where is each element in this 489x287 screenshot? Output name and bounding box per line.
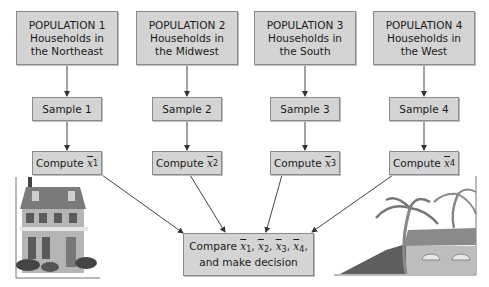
compute-2-box: Compute x2	[152, 151, 222, 175]
population-1-box: POPULATION 1 Households in the Northeast	[16, 11, 118, 65]
compare-box: Compare x1, x2, x3, x4, and make decisio…	[183, 233, 314, 276]
subscript: 2	[213, 157, 218, 170]
population-desc: the South	[279, 45, 330, 58]
population-desc: Households in	[387, 32, 461, 45]
compare-line-2: and make decision	[199, 256, 298, 269]
house-illustration	[14, 175, 102, 281]
subscript: 3	[331, 157, 336, 170]
compute-label: Compute	[393, 157, 441, 170]
population-3-box: POPULATION 3 Households in the South	[254, 11, 356, 65]
population-desc: the West	[401, 45, 447, 58]
sample-3-box: Sample 3	[270, 97, 340, 121]
compare-label: Compare	[189, 240, 237, 252]
population-desc: Households in	[150, 32, 224, 45]
sample-2-box: Sample 2	[152, 97, 222, 121]
subscript: 3	[282, 245, 287, 254]
palm-trees-house-illustration	[326, 172, 489, 284]
population-title: POPULATION 3	[267, 19, 344, 32]
population-title: POPULATION 1	[29, 19, 106, 32]
compute-label: Compute	[274, 157, 322, 170]
sample-1-box: Sample 1	[32, 97, 102, 121]
subscript: 1	[246, 245, 251, 254]
compute-label: Compute	[36, 157, 84, 170]
population-desc: the Midwest	[155, 45, 219, 58]
compute-label: Compute	[156, 157, 204, 170]
subscript: 2	[264, 245, 269, 254]
population-desc: Households in	[30, 32, 104, 45]
subscript: 4	[450, 157, 455, 170]
population-desc: Households in	[268, 32, 342, 45]
subscript: 1	[93, 157, 98, 170]
sample-4-box: Sample 4	[389, 97, 459, 121]
population-title: POPULATION 4	[386, 19, 463, 32]
population-desc: the Northeast	[31, 45, 103, 58]
population-title: POPULATION 2	[149, 19, 226, 32]
compute-1-box: Compute x1	[32, 151, 102, 175]
population-4-box: POPULATION 4 Households in the West	[373, 11, 475, 65]
subscript: 4	[299, 245, 304, 254]
compare-line-1: Compare x1, x2, x3, x4,	[189, 240, 307, 256]
population-2-box: POPULATION 2 Households in the Midwest	[136, 11, 238, 65]
